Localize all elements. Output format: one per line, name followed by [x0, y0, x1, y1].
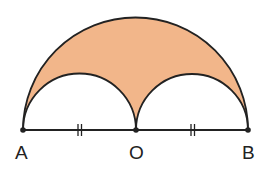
point-O [133, 127, 139, 133]
point-B [245, 127, 251, 133]
label-O: O [129, 142, 144, 163]
semicircle-diagram: A O B [0, 0, 268, 186]
label-B: B [242, 142, 255, 163]
shaded-region [23, 18, 248, 130]
point-A [20, 127, 26, 133]
label-A: A [15, 142, 28, 163]
